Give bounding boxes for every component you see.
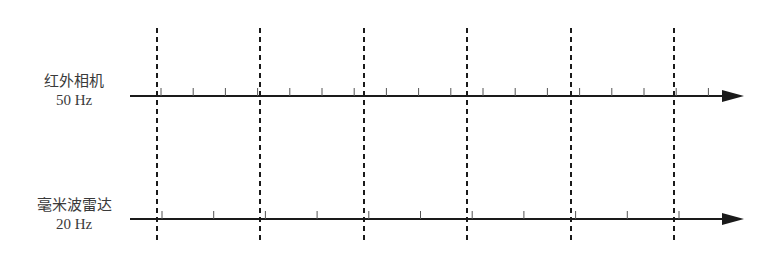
axis-arrow-icon [722, 213, 744, 225]
sensor-timeline-diagram [0, 0, 757, 266]
axis-arrow-icon [722, 90, 744, 102]
